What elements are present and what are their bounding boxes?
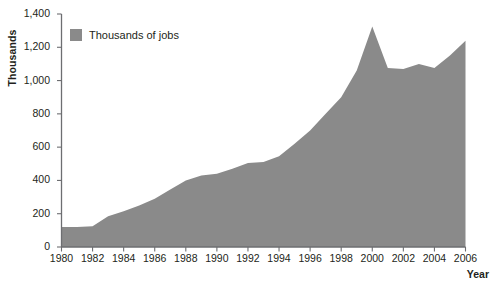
legend-swatch-icon <box>70 29 82 41</box>
x-axis-tick-label: 2002 <box>387 252 419 264</box>
x-axis-tick-label: 1988 <box>170 252 202 264</box>
x-axis-tick-label: 1998 <box>325 252 357 264</box>
x-axis-tick-label: 1992 <box>232 252 264 264</box>
x-axis-tick-label: 1980 <box>46 252 78 264</box>
x-axis-tick-label: 2000 <box>356 252 388 264</box>
x-axis-tick-label: 1982 <box>77 252 109 264</box>
x-axis-tick-label: 1984 <box>108 252 140 264</box>
y-axis-tick-label: 0 <box>44 240 50 252</box>
area-series <box>62 26 466 247</box>
y-axis-tick-label: 800 <box>32 107 50 119</box>
y-axis-tick-label: 400 <box>32 173 50 185</box>
y-axis-tick-label: 1,200 <box>24 40 50 52</box>
y-axis-tick-label: 1,400 <box>24 7 50 19</box>
x-axis-tick-label: 2004 <box>418 252 450 264</box>
x-axis-tick-label: 2006 <box>450 252 482 264</box>
x-axis-tick-label: 1990 <box>201 252 233 264</box>
x-axis-tick-label: 1994 <box>263 252 295 264</box>
x-axis-tick-label: 1986 <box>139 252 171 264</box>
legend-label: Thousands of jobs <box>89 29 179 41</box>
x-axis-tick-label: 1996 <box>294 252 326 264</box>
y-axis-tick-label: 600 <box>32 140 50 152</box>
y-axis-tick-label: 1,000 <box>24 74 50 86</box>
plot-area <box>0 0 495 292</box>
legend: Thousands of jobs <box>70 29 179 41</box>
area-fill <box>62 26 466 247</box>
chart-container: Thousands Year 1,4001,2001,0008006004002… <box>0 0 495 292</box>
y-axis-tick-label: 200 <box>32 207 50 219</box>
